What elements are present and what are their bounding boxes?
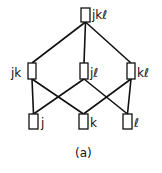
node-label-jl: jℓ [90, 67, 98, 79]
nodes-group [28, 8, 135, 129]
node-box-l [123, 114, 132, 129]
edge-jkl-jl [84, 22, 86, 63]
node-label-jkl: jkℓ [92, 9, 107, 21]
edge-jk-j [32, 79, 34, 114]
node-label-l: ℓ [134, 117, 139, 129]
node-box-jkl [81, 8, 90, 22]
node-box-jk [28, 63, 36, 79]
node-box-j [29, 114, 38, 129]
node-label-k: k [90, 117, 97, 129]
node-box-jl [80, 63, 88, 79]
diagram-caption: (a) [75, 147, 92, 159]
edge-jkl-kl [86, 22, 132, 63]
node-label-kl: kℓ [137, 67, 149, 79]
edge-jkl-jk [32, 22, 86, 63]
node-box-k [79, 114, 88, 129]
node-label-j: j [41, 117, 44, 129]
edge-kl-l [128, 79, 132, 114]
node-box-kl [127, 63, 135, 79]
node-label-jk: jk [11, 67, 21, 79]
